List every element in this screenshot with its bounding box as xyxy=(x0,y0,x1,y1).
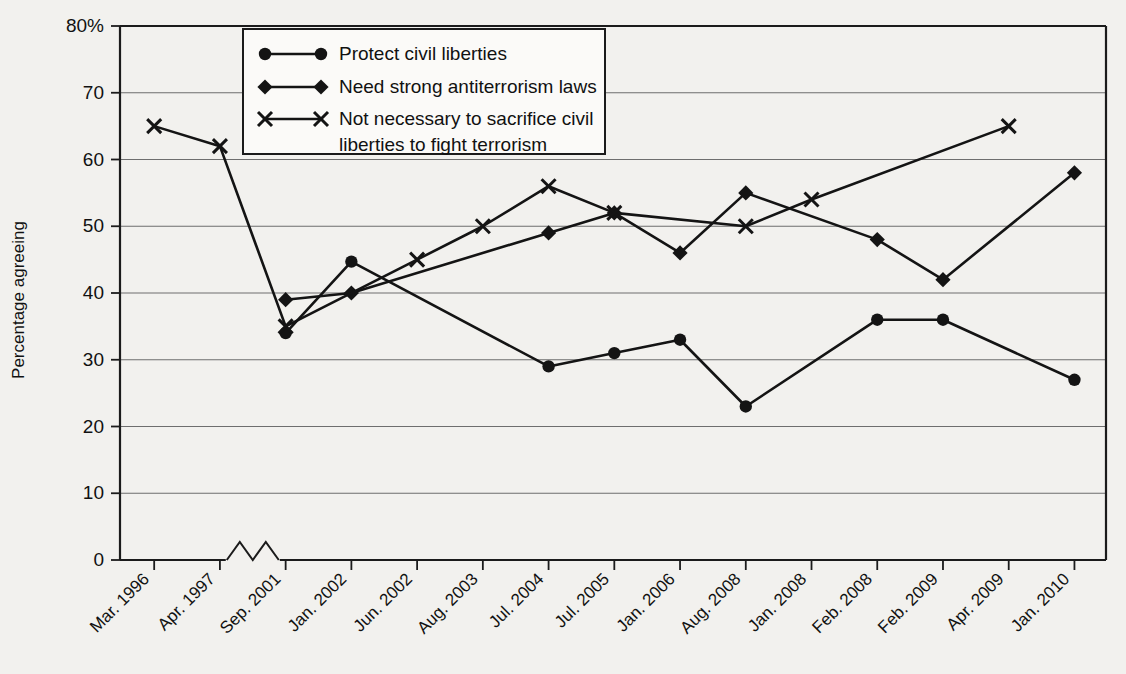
x-tick-label: Apr. 1997 xyxy=(154,569,219,634)
y-axis: 01020304050607080% xyxy=(66,15,120,570)
line-chart: 01020304050607080% Mar. 1996Apr. 1997Sep… xyxy=(0,0,1126,674)
circle-marker-icon xyxy=(937,314,949,326)
x-tick-label: Feb. 2008 xyxy=(809,569,877,637)
legend-entry-label: Not necessary to sacrifice civil xyxy=(339,108,593,129)
circle-marker-icon xyxy=(674,334,686,346)
x-tick-label: Jan. 2010 xyxy=(1007,569,1073,635)
y-tick-label: 10 xyxy=(83,482,104,503)
x-marker-icon xyxy=(213,139,227,153)
circle-marker-icon xyxy=(345,255,357,267)
x-tick-label: Jan. 2002 xyxy=(284,569,350,635)
circle-marker-icon xyxy=(608,347,620,359)
circle-marker-icon xyxy=(1068,374,1080,386)
y-tick-label: 70 xyxy=(83,82,104,103)
series-line-path xyxy=(286,173,1075,300)
x-marker-icon xyxy=(542,179,556,193)
legend-entry-label: liberties to fight terrorism xyxy=(339,134,547,155)
y-tick-label: 60 xyxy=(83,149,104,170)
x-tick-label: Jul. 2004 xyxy=(485,569,547,631)
x-tick-label: Jan. 2008 xyxy=(744,569,810,635)
legend-entry-label: Protect civil liberties xyxy=(339,43,507,64)
x-marker-icon xyxy=(410,253,424,267)
y-axis-title: Percentage agreeing xyxy=(9,221,28,379)
x-tick-label: Apr. 2009 xyxy=(943,569,1008,634)
x-tick-label: Aug. 2003 xyxy=(413,569,481,637)
x-tick-label: Aug. 2008 xyxy=(676,569,744,637)
circle-marker-icon xyxy=(259,48,271,60)
x-tick-label: Mar. 1996 xyxy=(86,569,153,636)
diamond-marker-icon xyxy=(870,232,885,247)
y-tick-label: 30 xyxy=(83,349,104,370)
y-axis-title-group: Percentage agreeing xyxy=(9,221,28,379)
x-tick-label: Jul. 2005 xyxy=(551,569,613,631)
x-marker-icon xyxy=(147,119,161,133)
circle-marker-icon xyxy=(542,360,554,372)
y-tick-label: 50 xyxy=(83,215,104,236)
circle-marker-icon xyxy=(740,400,752,412)
y-tick-label: 80% xyxy=(66,15,104,36)
diamond-marker-icon xyxy=(278,292,293,307)
circle-marker-icon xyxy=(315,48,327,60)
legend-entry-label: Need strong antiterrorism laws xyxy=(339,76,597,97)
diamond-marker-icon xyxy=(541,225,556,240)
chart-legend: Protect civil libertiesNeed strong antit… xyxy=(243,29,605,155)
circle-marker-icon xyxy=(871,314,883,326)
y-tick-label: 20 xyxy=(83,416,104,437)
x-tick-label: Feb. 2009 xyxy=(874,569,942,637)
chart-canvas: 01020304050607080% Mar. 1996Apr. 1997Sep… xyxy=(0,0,1126,674)
x-tick-label: Sep. 2001 xyxy=(216,569,284,637)
x-axis: Mar. 1996Apr. 1997Sep. 2001Jan. 2002Jun.… xyxy=(86,542,1106,638)
x-tick-label: Jun. 2002 xyxy=(350,569,416,635)
y-tick-label: 40 xyxy=(83,282,104,303)
y-tick-label: 0 xyxy=(93,549,104,570)
x-tick-label: Jan. 2006 xyxy=(613,569,679,635)
x-marker-icon xyxy=(805,193,819,207)
series-layer xyxy=(147,119,1082,413)
x-marker-icon xyxy=(1002,119,1016,133)
